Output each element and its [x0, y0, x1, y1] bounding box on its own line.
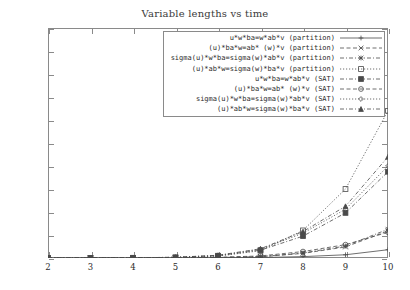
legend-item: (u)*ba*w=ab* (w)*v (partition): [164, 43, 384, 53]
x-axis-tick-label: 2: [45, 262, 50, 272]
legend-item: (u)*ba*w=ab* (w)*v (SAT): [164, 84, 384, 94]
legend-item-label: (u)*ba*w=ab* (w)*v (partition): [164, 44, 338, 52]
x-axis-tick-label: 6: [215, 262, 220, 272]
legend-item-label: (u)*ab*w=sigma(w)*ba*v (SAT): [164, 105, 338, 113]
legend-item-key: [338, 33, 384, 43]
x-axis-tick-label: 9: [343, 262, 348, 272]
x-axis-tick-label: 8: [300, 262, 305, 272]
legend-item-label: sigma(u)*w*ba=sigma(w)*ab*v (partition): [164, 54, 338, 62]
x-axis-tick-label: 3: [88, 262, 93, 272]
legend-item-label: u*w*ba=w*ab*v (partition): [164, 34, 338, 42]
x-axis-tick-label: 7: [258, 262, 263, 272]
legend-item-label: (u)*ab*w=sigma(w)*ba*v (partition): [164, 65, 338, 73]
legend-item-key: [338, 104, 384, 114]
legend-item-key: [338, 84, 384, 94]
legend-item-label: (u)*ba*w=ab* (w)*v (SAT): [164, 85, 338, 93]
x-axis-tick-label: 10: [383, 262, 394, 272]
chart-legend: u*w*ba=w*ab*v (partition)(u)*ba*w=ab* (w…: [163, 31, 385, 117]
legend-item: u*w*ba=w*ab*v (SAT): [164, 74, 384, 84]
legend-item-key: [338, 53, 384, 63]
legend-item: (u)*ab*w=sigma(w)*ba*v (partition): [164, 64, 384, 74]
x-axis-tick-label: 5: [173, 262, 178, 272]
legend-item-key: [338, 74, 384, 84]
legend-item-label: sigma(u)*w*ba=sigma(w)*ab*v (SAT): [164, 95, 338, 103]
data-series: [46, 108, 391, 260]
data-series: [46, 164, 391, 261]
legend-item-key: [338, 64, 384, 74]
legend-item: sigma(u)*w*ba=sigma(w)*ab*v (partition): [164, 53, 384, 63]
legend-item-label: u*w*ba=w*ab*v (SAT): [164, 75, 338, 83]
legend-item-key: [338, 94, 384, 104]
x-axis-tick-label: 4: [130, 262, 135, 272]
chart-container: Variable lengths vs time 010020030040050…: [0, 0, 410, 290]
legend-item: u*w*ba=w*ab*v (partition): [164, 33, 384, 43]
legend-item: (u)*ab*w=sigma(w)*ba*v (SAT): [164, 104, 384, 114]
data-series: [46, 154, 391, 260]
legend-item-key: [338, 43, 384, 53]
legend-item: sigma(u)*w*ba=sigma(w)*ab*v (SAT): [164, 94, 384, 104]
